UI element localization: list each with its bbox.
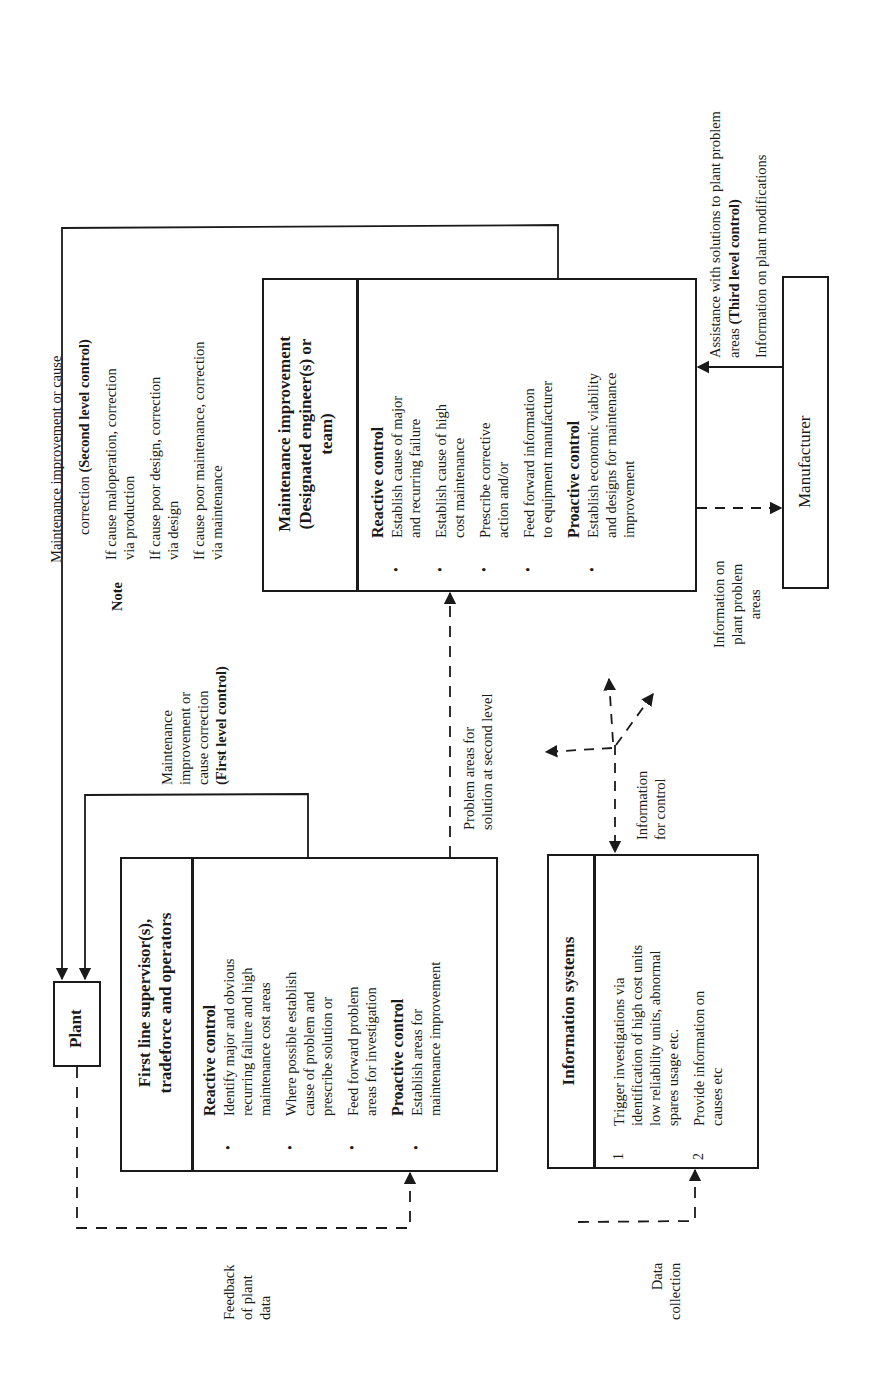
item-number: 2	[690, 1126, 708, 1160]
first-line-reactive-heading: Reactive control	[200, 959, 220, 1150]
item-line: Establish economic viability	[584, 373, 602, 538]
bullet-icon: •	[282, 1116, 300, 1150]
item-line: Provide information on	[690, 991, 708, 1126]
feedback-line: data	[256, 1264, 274, 1320]
information-systems-title: Information systems	[558, 856, 579, 1166]
first-line-item: • Identify major and obvious recurring f…	[220, 959, 274, 1150]
plant-label: Plant	[66, 1009, 86, 1048]
item-line: Establish cause of major	[388, 396, 406, 538]
item-line: cost maintenance	[450, 404, 468, 538]
item-line: to equipment manufacturer	[538, 381, 556, 538]
mi-title-line-2: (Designated engineer(s) or	[295, 278, 316, 590]
item-line: and designs for maintenance	[602, 373, 620, 538]
maintenance-improvement-divider	[356, 279, 359, 591]
third-level-line-3: Information on plant modifications	[752, 111, 771, 358]
bullet-icon: •	[476, 538, 494, 572]
info-for-control-label: Information for control	[633, 771, 669, 840]
mi-item: • Establish cause of major and recurring…	[388, 373, 424, 572]
bullet-icon: •	[388, 538, 406, 572]
problem-areas-line: Problem areas for	[460, 693, 478, 830]
item-line: maintenance cost areas	[256, 959, 274, 1116]
info-for-control-line: for control	[651, 771, 669, 840]
note-line: via design	[164, 341, 182, 560]
data-collection-arrow	[578, 1170, 695, 1222]
feedback-line: of plant	[238, 1264, 256, 1320]
item-line: and recurring failure	[406, 396, 424, 538]
first-line-item: • Establish areas for maintenance improv…	[408, 959, 444, 1150]
third-level-line-2: areas (Third level control)	[725, 111, 744, 358]
note-line: via production	[120, 341, 138, 560]
info-control-up-arrow	[609, 679, 613, 742]
third-level-bold: (Third level control)	[726, 199, 742, 324]
item-line: action and/or	[494, 422, 512, 538]
note-label-text: Note	[109, 582, 125, 611]
mi-title-line-1: Maintenance improvement	[274, 278, 295, 590]
item-line: recurring failure and high	[238, 959, 256, 1116]
maintenance-improvement-content: Reactive control • Establish cause of ma…	[368, 373, 638, 572]
feedback-line: Feedback	[220, 1264, 238, 1320]
manufacturer-label: Manufacturer	[795, 415, 815, 508]
second-level-bold: (Second level control)	[76, 339, 92, 472]
data-collection-line: collection	[666, 1263, 684, 1320]
item-number: 1	[610, 1126, 628, 1160]
info-control-ne-arrow	[616, 694, 653, 745]
third-level-control-label: Assistance with solutions to plant probl…	[706, 111, 771, 358]
first-level-line: cause correction	[194, 666, 212, 785]
third-level-line-1: Assistance with solutions to plant probl…	[706, 111, 725, 358]
information-systems-content: 1 Trigger investigations via identificat…	[610, 945, 726, 1160]
item-line: spares usage etc.	[664, 945, 682, 1126]
info-control-left-arrow	[546, 748, 612, 752]
first-line-title-line-2: tradeforce and operators	[155, 858, 176, 1148]
info-item: 2 Provide information on causes etc	[690, 945, 726, 1160]
info-problem-areas-line: areas	[746, 561, 764, 648]
item-line: Where possible establish	[282, 972, 300, 1116]
maintenance-improvement-title: Maintenance improvement (Designated engi…	[274, 278, 337, 590]
note-items: If cause maloperation, correction via pr…	[102, 341, 226, 560]
item-line: prescribe solution or	[318, 972, 336, 1116]
first-level-line: improvement or	[176, 666, 194, 785]
info-problem-areas-line: plant problem	[728, 561, 746, 648]
mi-item: • Establish cause of high cost maintenan…	[432, 373, 468, 572]
item-line: Feed forward information	[520, 381, 538, 538]
first-line-content: Reactive control • Identify major and ob…	[200, 959, 444, 1150]
item-line: low reliability units, abnormal	[646, 945, 664, 1126]
first-line-divider	[191, 858, 194, 1171]
first-line-title-line-1: First line supervisor(s),	[134, 858, 155, 1148]
note-label: Note	[108, 582, 126, 611]
problem-areas-label: Problem areas for solution at second lev…	[460, 693, 496, 830]
information-systems-title-text: Information systems	[559, 937, 578, 1086]
item-line: identification of high cost units	[628, 945, 646, 1126]
bullet-icon: •	[220, 1116, 238, 1150]
item-line: causes etc	[708, 991, 726, 1126]
note-line: If cause poor design, correction	[146, 341, 164, 560]
data-collection-label: Data collection	[648, 1263, 684, 1320]
item-line: Trigger investigations via	[610, 945, 628, 1126]
mi-reactive-heading: Reactive control	[368, 373, 388, 572]
feedback-label: Feedback of plant data	[220, 1264, 274, 1320]
first-line-item: • Feed forward problem areas for investi…	[344, 959, 380, 1150]
info-for-control-line: Information	[633, 771, 651, 840]
item-line: Establish areas for	[408, 962, 426, 1116]
item-line: Prescribe corrective	[476, 422, 494, 538]
mi-item: • Prescribe corrective action and/or	[476, 373, 512, 572]
item-line: Establish cause of high	[432, 404, 450, 538]
item-line: maintenance improvement	[426, 962, 444, 1116]
second-level-control-label: Maintenance improvement or cause correct…	[42, 339, 98, 563]
bullet-icon: •	[520, 538, 538, 572]
mi-title-line-3: team)	[316, 278, 337, 590]
item-line: cause of problem and	[300, 972, 318, 1116]
first-level-bold: (First level control)	[212, 666, 230, 785]
item-line: Feed forward problem	[344, 986, 362, 1116]
first-line-proactive-heading: Proactive control	[388, 959, 408, 1150]
bullet-icon: •	[408, 1116, 426, 1150]
first-line-title: First line supervisor(s), tradeforce and…	[134, 858, 176, 1148]
mi-proactive-heading: Proactive control	[564, 373, 584, 572]
mi-item: • Feed forward information to equipment …	[520, 373, 556, 572]
info-problem-areas-line: Information on	[710, 561, 728, 648]
note-line: via maintenance	[208, 341, 226, 560]
third-level-prefix: areas	[726, 325, 742, 358]
mi-item: • Establish economic viability and desig…	[584, 373, 638, 572]
item-line: areas for investigation	[362, 986, 380, 1116]
information-systems-divider	[593, 855, 596, 1168]
plant-label-text: Plant	[66, 1009, 85, 1048]
